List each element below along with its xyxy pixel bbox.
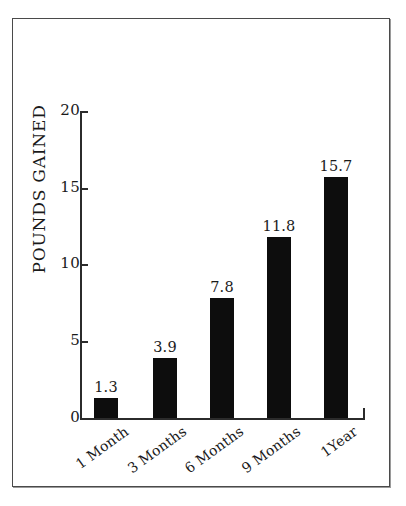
- bar-value-label: 11.8: [262, 219, 295, 234]
- x-tick-label-1-year: 1Year: [299, 423, 360, 474]
- bar-rect: [94, 398, 118, 418]
- x-axis-line: [80, 418, 365, 420]
- figure-root: POUNDS GAINED 0 5 10 15 20: [0, 0, 406, 506]
- bar-value-label: 7.8: [210, 280, 234, 295]
- bar-rect: [210, 298, 234, 418]
- bar-value-label: 15.7: [319, 159, 352, 174]
- bar-group[interactable]: 1.3: [94, 398, 118, 418]
- y-tick-label-20: 20: [36, 103, 80, 118]
- bar-rect: [324, 177, 348, 418]
- x-axis-end-tick: [363, 408, 365, 419]
- y-tick-mark-0: [80, 418, 88, 420]
- y-tick-mark-5: [80, 341, 88, 343]
- y-tick-mark-10: [80, 264, 88, 266]
- bar-value-label: 3.9: [153, 340, 177, 355]
- y-tick-mark-15: [80, 188, 88, 190]
- bar-rect: [153, 358, 177, 418]
- bar-group[interactable]: 7.8: [210, 298, 234, 418]
- y-tick-label-0: 0: [36, 410, 80, 425]
- figure-border-frame: POUNDS GAINED 0 5 10 15 20: [12, 18, 390, 487]
- bar-value-label: 1.3: [94, 380, 118, 395]
- y-tick-label-15: 15: [36, 180, 80, 195]
- y-tick-label-10: 10: [36, 256, 80, 271]
- y-tick-label-5: 5: [36, 333, 80, 348]
- plot-area: POUNDS GAINED 0 5 10 15 20: [13, 19, 391, 488]
- bar-group[interactable]: 11.8: [267, 237, 291, 418]
- bar-group[interactable]: 3.9: [153, 358, 177, 418]
- bar-rect: [267, 237, 291, 418]
- y-tick-mark-20: [80, 111, 88, 113]
- bar-group[interactable]: 15.7: [324, 177, 348, 418]
